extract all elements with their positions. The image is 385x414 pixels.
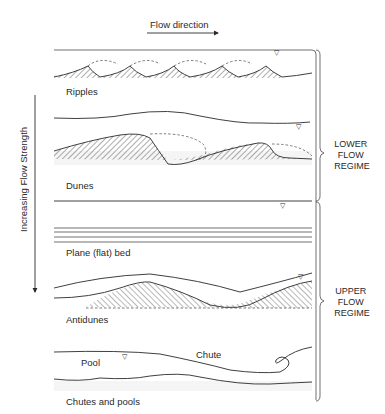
panel-dunes: ▽ Dunes xyxy=(54,111,312,191)
water-surface-icon: ▽ xyxy=(296,123,302,130)
panel-ripples: ▽ Ripples xyxy=(54,49,312,97)
panel-label-plane-bed: Plane (flat) bed xyxy=(66,247,130,258)
breaking-wave-icon xyxy=(276,347,312,372)
annotation-chute: Chute xyxy=(196,349,221,360)
regime-label-upper: UPPER FLOW REGIME xyxy=(334,286,370,318)
panel-antidunes: ▽ Antidunes xyxy=(54,273,312,325)
panel-label-dunes: Dunes xyxy=(66,180,94,191)
panel-chutes-pools: ▽ Pool Chute Chutes and pools xyxy=(54,347,312,407)
water-surface-icon: ▽ xyxy=(298,273,304,280)
brace-upper-regime: UPPER FLOW REGIME xyxy=(316,202,370,401)
flow-strength-label: Increasing Flow Strength xyxy=(18,127,29,232)
flow-direction-label: Flow direction xyxy=(150,19,209,30)
water-surface-icon: ▽ xyxy=(122,353,128,360)
diagram-frame xyxy=(54,50,316,400)
panel-plane-bed: Plane (flat) bed xyxy=(54,228,312,258)
annotation-pool: Pool xyxy=(81,357,100,368)
regime-label-lower: LOWER FLOW REGIME xyxy=(334,139,370,171)
panel-label-chutes-pools: Chutes and pools xyxy=(66,396,140,407)
panel-label-antidunes: Antidunes xyxy=(66,314,109,325)
brace-lower-regime: LOWER FLOW REGIME xyxy=(316,50,370,201)
bedform-diagram: Flow direction Increasing Flow Strength … xyxy=(0,0,385,414)
panel-label-ripples: Ripples xyxy=(66,86,98,97)
flow-direction-indicator: Flow direction xyxy=(147,19,218,33)
flow-strength-indicator: Increasing Flow Strength xyxy=(18,95,35,292)
water-surface-icon: ▽ xyxy=(280,202,286,209)
